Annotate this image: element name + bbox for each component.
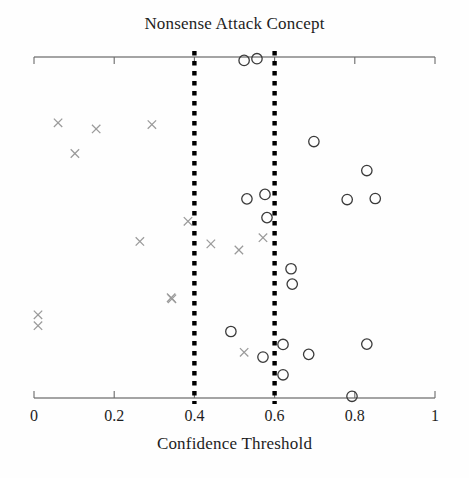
- data-point-cross: [71, 149, 79, 157]
- data-point-circle: [262, 212, 272, 222]
- data-point-circle: [226, 326, 236, 336]
- x-tick-label: 0.2: [104, 407, 124, 425]
- data-point-circle: [260, 189, 270, 199]
- chart-figure: Nonsense Attack Concept 00.20.40.60.81 C…: [0, 0, 469, 478]
- x-tick-label: 0.6: [265, 407, 285, 425]
- data-point-circle: [278, 370, 288, 380]
- data-point-cross: [259, 234, 267, 242]
- x-axis-label: Confidence Threshold: [0, 434, 469, 454]
- x-tick-label: 0.8: [345, 407, 365, 425]
- data-point-cross: [34, 311, 42, 319]
- data-point-cross: [240, 348, 248, 356]
- data-point-circle: [258, 352, 268, 362]
- data-point-circle: [362, 165, 372, 175]
- x-tick-label: 0.4: [184, 407, 204, 425]
- plot-axes: [34, 57, 435, 398]
- threshold-lines: [194, 51, 274, 404]
- data-point-circle: [303, 349, 313, 359]
- x-tick-label: 0: [30, 407, 38, 425]
- data-point-cross: [136, 237, 144, 245]
- cross-marker-series: [34, 119, 267, 357]
- data-point-circle: [362, 339, 372, 349]
- scatter-plot-canvas: [0, 0, 469, 478]
- data-point-circle: [347, 391, 357, 401]
- data-point-cross: [168, 295, 176, 303]
- data-point-circle: [252, 54, 262, 64]
- data-point-circle: [286, 264, 296, 274]
- data-point-cross: [92, 125, 100, 133]
- data-point-circle: [278, 339, 288, 349]
- data-point-cross: [184, 217, 192, 225]
- data-point-cross: [54, 119, 62, 127]
- data-point-cross: [235, 246, 243, 254]
- data-point-cross: [34, 322, 42, 330]
- data-point-circle: [342, 194, 352, 204]
- data-point-circle: [370, 193, 380, 203]
- data-point-circle: [287, 279, 297, 289]
- data-point-circle: [242, 194, 252, 204]
- x-tick-label: 1: [431, 407, 439, 425]
- data-point-cross: [207, 240, 215, 248]
- data-point-cross: [148, 120, 156, 128]
- circle-marker-series: [226, 54, 381, 402]
- data-point-circle: [309, 136, 319, 146]
